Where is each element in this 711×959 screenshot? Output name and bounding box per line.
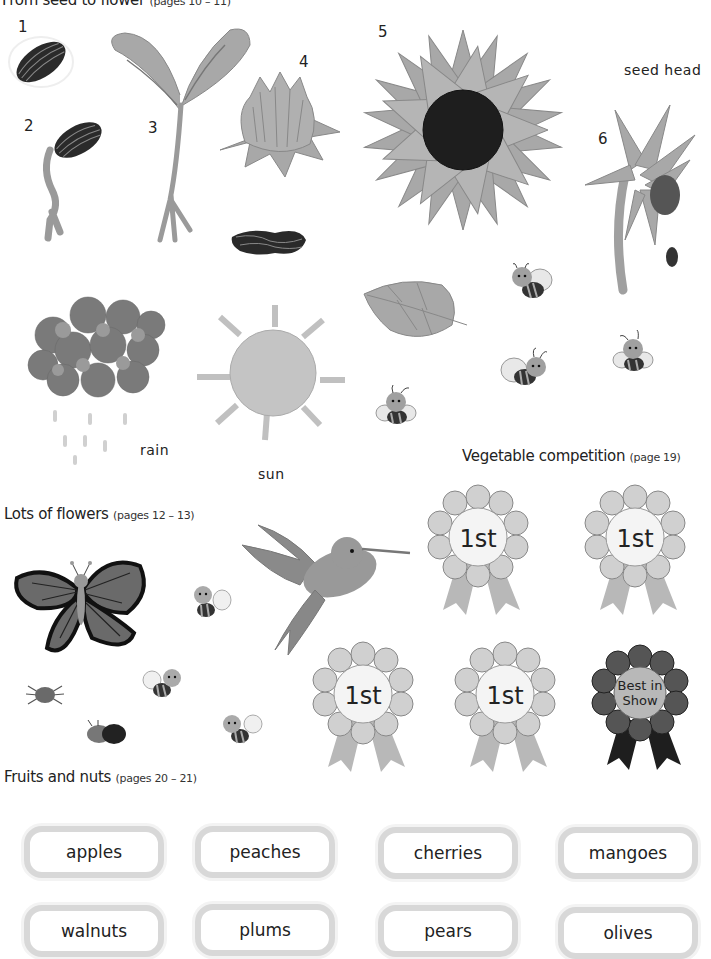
drooping-seed-head-sticker[interactable] [585, 100, 700, 295]
bee-sticker[interactable] [498, 345, 558, 393]
section-title: Fruits and nuts [4, 768, 111, 786]
rosette-label: 1st [616, 525, 653, 553]
section-heading-seed-to-flower: From seed to flower (pages 10 – 11) [2, 0, 231, 9]
rain-label: rain [140, 442, 169, 458]
section-title: From seed to flower [2, 0, 145, 9]
stage-number-4: 4 [299, 53, 309, 71]
rosette-1st-sticker[interactable]: 1st [313, 642, 413, 767]
bee-sticker[interactable] [188, 580, 233, 622]
bee-sticker[interactable] [375, 383, 420, 433]
section-pages: (page 19) [630, 451, 681, 464]
rosette-best-in-show-sticker[interactable]: Best in Show [593, 645, 688, 770]
rosette-label-line1: Best in [618, 678, 663, 693]
section-title: Lots of flowers [4, 505, 109, 523]
sun-label: sun [258, 466, 285, 482]
rosette-label: 1st [344, 682, 381, 710]
rosette-label: 1st [459, 525, 496, 553]
section-pages: (pages 12 – 13) [113, 509, 194, 522]
stage-number-1: 1 [18, 18, 28, 36]
section-pages: (pages 10 – 11) [149, 0, 230, 8]
rosette-1st-sticker[interactable]: 1st [455, 642, 555, 767]
sun-sticker[interactable] [195, 305, 345, 440]
bee-sticker[interactable] [142, 662, 187, 704]
fruit-label-sticker-olives[interactable]: olives [558, 907, 698, 959]
section-title: Vegetable competition [462, 447, 625, 465]
hummingbird-sticker[interactable] [240, 525, 415, 660]
dark-seed-sticker[interactable] [230, 225, 310, 260]
rosette-label-line2: Show [622, 693, 657, 708]
seed-sticker[interactable] [8, 35, 78, 90]
section-pages: (pages 20 – 21) [116, 772, 197, 785]
fruit-label-sticker-plums[interactable]: plums [195, 904, 335, 956]
flower-bud-sticker[interactable] [215, 72, 345, 192]
section-heading-lots-of-flowers: Lots of flowers (pages 12 – 13) [4, 505, 194, 523]
fruit-label-sticker-peaches[interactable]: peaches [195, 826, 335, 878]
fruit-label-sticker-apples[interactable]: apples [24, 826, 164, 878]
rain-cloud-sticker[interactable] [28, 295, 168, 465]
bee-sticker[interactable] [612, 330, 657, 380]
seed-head-label: seed head [624, 62, 701, 78]
leaf-sticker[interactable] [362, 280, 472, 345]
butterfly-sticker[interactable] [12, 548, 147, 658]
rosette-1st-sticker[interactable]: 1st [585, 485, 685, 620]
bee-sticker[interactable] [218, 706, 263, 748]
rosette-label: 1st [486, 682, 523, 710]
fruit-label-sticker-pears[interactable]: pears [378, 905, 518, 957]
section-heading-fruits-and-nuts: Fruits and nuts (pages 20 – 21) [4, 768, 197, 786]
fruit-label-sticker-mangoes[interactable]: mangoes [558, 827, 698, 879]
rosette-1st-sticker[interactable]: 1st [428, 485, 528, 620]
spider-sticker[interactable] [24, 682, 66, 707]
sunflower-sticker[interactable] [355, 25, 575, 235]
sprouting-seed-sticker[interactable] [30, 120, 110, 245]
fruit-label-sticker-walnuts[interactable]: walnuts [24, 905, 164, 957]
fruit-label-sticker-cherries[interactable]: cherries [378, 827, 518, 879]
beetle-sticker[interactable] [84, 718, 129, 746]
bee-sticker[interactable] [505, 262, 555, 304]
section-heading-vegetable-competition: Vegetable competition (page 19) [462, 447, 680, 465]
